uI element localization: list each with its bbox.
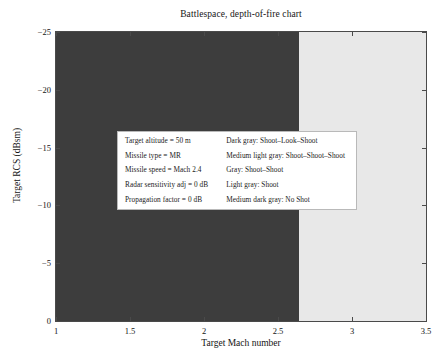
y-tick-mark bbox=[56, 148, 60, 149]
y-axis-title: Target RCS (dBsm) bbox=[12, 76, 23, 256]
legend-classes-column: Dark gray: Shoot–Look–ShootMedium light … bbox=[226, 137, 350, 204]
x-tick-mark bbox=[352, 32, 353, 36]
y-tick-mark bbox=[56, 321, 60, 322]
x-tick-mark bbox=[426, 32, 427, 36]
y-tick-mark bbox=[422, 321, 426, 322]
legend-class-3: Light gray: Shoot bbox=[226, 181, 350, 189]
x-tick-mark bbox=[204, 317, 205, 321]
x-tick-mark bbox=[56, 32, 57, 36]
y-tick-mark bbox=[422, 205, 426, 206]
x-tick-label-3: 2.5 bbox=[273, 326, 284, 336]
x-tick-mark bbox=[278, 317, 279, 321]
y-tick-mark bbox=[56, 90, 60, 91]
y-tick-label-5: 0 bbox=[47, 316, 51, 326]
y-tick-label-1: −20 bbox=[38, 85, 51, 95]
legend-class-0: Dark gray: Shoot–Look–Shoot bbox=[226, 137, 350, 145]
shoot-look-shoot-step-middle bbox=[56, 39, 299, 49]
x-tick-mark bbox=[426, 317, 427, 321]
legend-parameters-column: Target altitude = 50 mMissile type = MRM… bbox=[125, 137, 226, 204]
legend-parameter-3: Radar sensitivity adj = 0 dB bbox=[125, 181, 226, 189]
x-tick-mark bbox=[278, 32, 279, 36]
x-axis-title: Target Mach number bbox=[55, 338, 427, 349]
y-tick-mark bbox=[56, 205, 60, 206]
y-tick-mark bbox=[422, 263, 426, 264]
legend-parameter-2: Missile speed = Mach 2.4 bbox=[125, 166, 226, 174]
legend-parameter-0: Target altitude = 50 m bbox=[125, 137, 226, 145]
x-tick-mark bbox=[352, 317, 353, 321]
x-tick-mark bbox=[130, 317, 131, 321]
x-tick-label-0: 1 bbox=[54, 326, 58, 336]
legend-parameter-1: Missile type = MR bbox=[125, 152, 226, 160]
y-tick-label-3: −10 bbox=[38, 200, 51, 210]
x-axis-tick-labels: 11.522.533.5 bbox=[55, 326, 427, 338]
legend-class-4: Medium dark gray: No Shot bbox=[226, 196, 350, 204]
x-tick-label-2: 2 bbox=[202, 326, 206, 336]
legend-class-1: Medium light gray: Shoot–Shoot–Shoot bbox=[226, 152, 350, 160]
y-tick-mark bbox=[422, 148, 426, 149]
x-tick-mark bbox=[56, 317, 57, 321]
chart-figure: Battlespace, depth-of-fire chart −25−20−… bbox=[0, 0, 443, 356]
y-tick-label-2: −15 bbox=[38, 143, 51, 153]
legend-box: Target altitude = 50 mMissile type = MRM… bbox=[117, 131, 357, 210]
legend-class-2: Gray: Shoot–Shoot bbox=[226, 166, 350, 174]
y-tick-mark bbox=[422, 90, 426, 91]
x-tick-mark bbox=[204, 32, 205, 36]
y-tick-mark bbox=[56, 263, 60, 264]
x-tick-mark bbox=[130, 32, 131, 36]
x-tick-label-4: 3 bbox=[350, 326, 354, 336]
legend-parameter-4: Propagation factor = 0 dB bbox=[125, 196, 226, 204]
chart-title: Battlespace, depth-of-fire chart bbox=[55, 8, 427, 20]
x-tick-label-1: 1.5 bbox=[125, 326, 136, 336]
y-tick-label-4: −5 bbox=[42, 258, 51, 268]
shoot-look-shoot-step-upper bbox=[56, 32, 289, 39]
x-tick-label-5: 3.5 bbox=[421, 326, 432, 336]
y-tick-label-0: −25 bbox=[38, 27, 51, 37]
